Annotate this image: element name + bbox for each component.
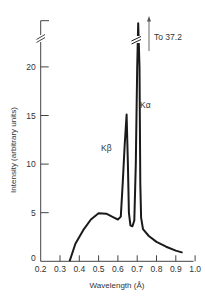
x-tick-label: 0.2 (35, 264, 47, 274)
x-axis: 0.20.30.40.50.60.70.80.91.0 (35, 255, 201, 274)
y-tick-label: 20 (26, 62, 36, 72)
spectrum-curve (70, 23, 183, 261)
x-tick-label: 0.9 (170, 264, 182, 274)
x-tick-label: 0.5 (93, 264, 105, 274)
x-tick-label: 0.6 (112, 264, 124, 274)
k-alpha-label: Kα (140, 100, 151, 110)
x-axis-title: Wavelength (Å) (90, 281, 145, 290)
y-tick-label: 15 (26, 111, 36, 121)
xray-spectrum-chart: 05101520 0.20.30.40.50.60.70.80.91.0 To … (0, 0, 205, 308)
up-arrow-icon (147, 16, 151, 51)
axis-break-icon (36, 35, 46, 43)
y-ticks: 05101520 (26, 62, 48, 263)
x-tick-label: 0.8 (151, 264, 163, 274)
x-ticks: 0.20.30.40.50.60.70.80.91.0 (35, 255, 201, 274)
x-tick-label: 0.7 (131, 264, 143, 274)
peak-value-annotation: To 37.2 (154, 32, 182, 42)
x-tick-label: 0.4 (73, 264, 85, 274)
y-tick-label: 0 (31, 253, 36, 263)
k-beta-label: Kβ (101, 143, 112, 153)
x-tick-label: 1.0 (189, 264, 201, 274)
y-axis-title: Intensity (arbitrary units) (9, 107, 18, 193)
peak-break-icon (131, 36, 142, 44)
y-tick-label: 5 (31, 208, 36, 218)
y-tick-label: 10 (26, 159, 36, 169)
y-axis: 05101520 (26, 21, 49, 264)
x-tick-label: 0.3 (54, 264, 66, 274)
